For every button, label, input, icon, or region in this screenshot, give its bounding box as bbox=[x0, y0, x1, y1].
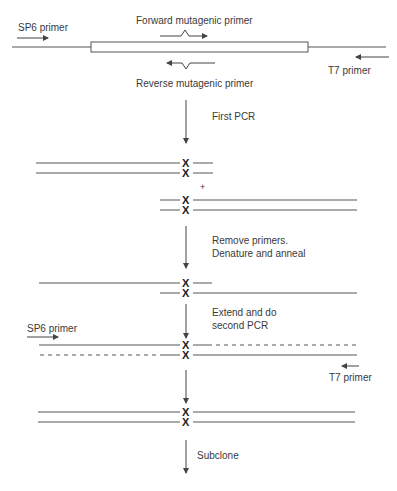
forward-mutagenic-primer-arrow bbox=[160, 30, 207, 36]
plus-sign: + bbox=[200, 181, 205, 194]
step-label-first-pcr: First PCR bbox=[212, 110, 255, 123]
step-label-second-pcr: second PCR bbox=[212, 319, 268, 332]
reverse-mutagenic-primer-arrow bbox=[167, 63, 215, 69]
sp6-primer-label-bottom: SP6 primer bbox=[27, 322, 77, 335]
mutation-mark: X bbox=[182, 288, 189, 298]
step-label-denature-anneal: Denature and anneal bbox=[212, 247, 305, 260]
mutation-mark: X bbox=[182, 417, 189, 427]
sp6-primer-label-top: SP6 primer bbox=[18, 21, 68, 34]
template-dna bbox=[12, 42, 386, 52]
step-label-extend: Extend and do bbox=[212, 306, 277, 319]
step-label-remove-primers: Remove primers. bbox=[212, 234, 288, 247]
mutation-mark: X bbox=[182, 205, 189, 215]
annealed-strands bbox=[39, 283, 357, 293]
mutation-mark: X bbox=[182, 350, 189, 360]
first-pcr-right-fragment bbox=[160, 200, 357, 210]
extended-strands bbox=[39, 345, 358, 355]
forward-mutagenic-primer-label: Forward mutagenic primer bbox=[136, 14, 253, 27]
t7-primer-label-top: T7 primer bbox=[328, 64, 371, 77]
mutation-mark: X bbox=[182, 168, 189, 178]
t7-primer-label-bottom: T7 primer bbox=[329, 371, 372, 384]
reverse-mutagenic-primer-label: Reverse mutagenic primer bbox=[136, 77, 253, 90]
step-label-subclone: Subclone bbox=[197, 449, 239, 462]
final-mutant-product bbox=[38, 412, 355, 422]
